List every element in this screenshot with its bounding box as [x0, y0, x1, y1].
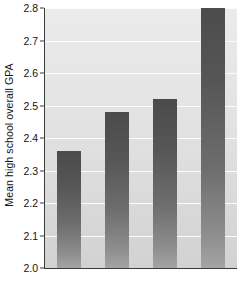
- y-tick-label: 2.4: [23, 132, 38, 144]
- y-tick-label: 2.7: [23, 35, 38, 47]
- y-tick-label: 2.5: [23, 100, 38, 112]
- y-tick-label: 2.0: [23, 262, 38, 274]
- y-axis-tick-labels: 2.02.12.22.32.42.52.62.72.8: [16, 0, 42, 290]
- y-tick-label: 2.3: [23, 165, 38, 177]
- y-tick-label: 2.2: [23, 197, 38, 209]
- bar: [105, 112, 130, 268]
- bar-chart-figure: Mean high school overall GPA 2.02.12.22.…: [0, 0, 239, 290]
- x-axis-line: [44, 268, 237, 269]
- bar: [153, 99, 178, 268]
- plot-area: [45, 8, 237, 268]
- y-tick-label: 2.6: [23, 67, 38, 79]
- y-axis-title-text: Mean high school overall GPA: [3, 63, 15, 206]
- y-tick-label: 2.8: [23, 2, 38, 14]
- bar: [201, 8, 226, 268]
- y-tick-label: 2.1: [23, 230, 38, 242]
- bar: [57, 151, 82, 268]
